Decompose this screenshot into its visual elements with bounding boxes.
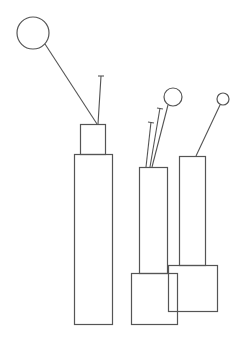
- diagram-svg: [0, 0, 242, 344]
- right-column-rect-0: [180, 157, 206, 266]
- middle-column-stick-2: [146, 122, 151, 167]
- middle-column-rect-1: [132, 274, 178, 325]
- left-column-circle-0: [17, 17, 49, 49]
- middle-column-tick-0: [157, 108, 163, 109]
- middle-column-stick-1: [150, 108, 160, 167]
- middle-column-circle-0: [164, 88, 182, 106]
- right-column-stick-0: [196, 105, 220, 156]
- middle-column-rect-0: [140, 168, 168, 274]
- right-column-circle-0: [217, 93, 229, 105]
- middle-column-stick-0: [152, 105, 168, 167]
- left-column-rect-1: [75, 155, 113, 325]
- right-column-rect-1: [169, 266, 218, 312]
- left-column-stick-1: [98, 76, 101, 124]
- left-column-group: [17, 17, 113, 325]
- middle-column-group: [132, 88, 183, 325]
- diagram-canvas: [0, 0, 242, 344]
- middle-column-tick-1: [148, 122, 154, 123]
- left-column-rect-0: [81, 125, 106, 155]
- left-column-stick-0: [45, 44, 97, 124]
